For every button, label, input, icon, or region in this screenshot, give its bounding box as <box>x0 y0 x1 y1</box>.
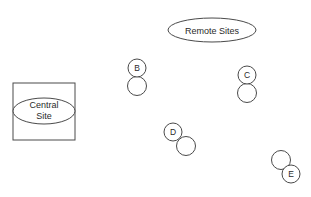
site-b-node-circle <box>128 77 147 96</box>
site-d: D <box>164 123 196 156</box>
central-site-label-line1: Central <box>29 100 58 110</box>
site-c: C <box>238 66 257 103</box>
central-site-label-line2: Site <box>36 111 52 121</box>
remote-sites-label: Remote Sites <box>168 18 256 42</box>
remote-sites-text: Remote Sites <box>185 26 240 36</box>
site-e-label: E <box>288 169 294 179</box>
network-diagram: Central Site Remote Sites B C D E <box>0 0 311 197</box>
site-c-node-circle <box>238 84 257 103</box>
site-d-label: D <box>170 127 176 137</box>
site-b-label: B <box>134 63 140 73</box>
site-e: E <box>272 151 301 184</box>
site-c-label: C <box>244 70 250 80</box>
central-site: Central Site <box>13 83 75 140</box>
site-d-node-circle <box>177 137 196 156</box>
site-b: B <box>128 59 147 96</box>
